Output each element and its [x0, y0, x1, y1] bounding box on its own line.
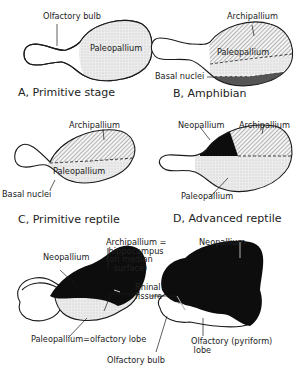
label-b-paleopallium: Paleopallium [217, 48, 269, 57]
label-e-archipallium-hippocampus: Archipallium = hippocampus (on median su… [106, 238, 166, 272]
caption-d: D, Advanced reptile [173, 212, 282, 225]
evolution-of-cerebral-pallium-diagram: Olfactory bulb Paleopallium A, Primitive… [0, 0, 295, 367]
label-b-basal-nuclei: Basal nuclei [155, 72, 204, 81]
label-d-paleopallium: Paleopallium [181, 192, 233, 201]
label-a-olfactory-bulb: Olfactory bulb [43, 12, 101, 21]
label-e-neopallium-left: Neopallium [43, 253, 89, 262]
label-e-neopallium-right: Neopallium [199, 238, 245, 247]
panel-c-brain [10, 125, 140, 195]
label-b-archipallium: Archipallium [227, 12, 278, 21]
caption-b: B, Amphibian [173, 87, 247, 100]
caption-c: C, Primitive reptile [18, 213, 120, 226]
label-e-paleopallium-olfactory-lobe: Paleopallium=olfactory lobe [31, 335, 146, 344]
label-c-paleopallium: Paleopallium [53, 167, 105, 176]
label-d-archipallium: Archipallium [239, 121, 290, 130]
panel-d-brain [155, 120, 295, 200]
label-c-basal-nuclei: Basal nuclei [2, 190, 51, 199]
label-c-archipallium: Archipallium [69, 121, 120, 130]
label-d-neopallium: Neopallium [178, 121, 224, 130]
label-e-olfactory-pyriform-lobe: Olfactory (pyriform) lobe [191, 337, 272, 354]
label-e-rhinal-fissure: Rhinal fissure [135, 283, 162, 300]
caption-a: A, Primitive stage [18, 86, 115, 99]
label-e-olfactory-bulb: Olfactory bulb [107, 356, 165, 365]
label-a-paleopallium: Paleopallium [90, 44, 142, 53]
